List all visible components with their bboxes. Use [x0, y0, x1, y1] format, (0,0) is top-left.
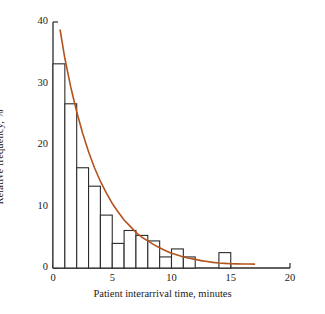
y-tick-label: 10	[17, 200, 48, 211]
histogram-bar	[65, 104, 77, 268]
histogram-bar	[89, 186, 101, 268]
histogram-bar	[219, 253, 231, 268]
histogram-bar	[160, 257, 172, 268]
y-tick-label: 40	[17, 15, 48, 26]
y-tick-label: 30	[17, 77, 48, 88]
histogram-bar	[112, 243, 124, 268]
chart-figure: Relative frequency, % Patient interarriv…	[0, 0, 325, 314]
x-axis-label: Patient interarrival time, minutes	[0, 288, 325, 299]
x-tick-label: 10	[157, 272, 187, 283]
histogram-bar	[77, 168, 89, 268]
x-tick-label: 20	[275, 272, 305, 283]
histogram-bar	[124, 230, 136, 268]
y-tick-label: 0	[17, 261, 48, 272]
chart-svg	[0, 0, 325, 314]
x-tick-label: 15	[216, 272, 246, 283]
x-tick-label: 5	[97, 272, 127, 283]
y-tick-label: 20	[17, 138, 48, 149]
x-tick-label: 0	[38, 272, 68, 283]
histogram-bar	[100, 215, 112, 268]
histogram-bar	[172, 249, 184, 268]
histogram-bar	[53, 64, 65, 268]
